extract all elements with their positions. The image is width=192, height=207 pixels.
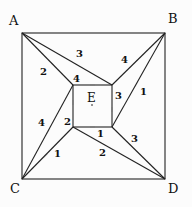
arrow-bl-d-icon bbox=[100, 142, 105, 145]
weight-d-br: 3 bbox=[131, 133, 138, 144]
center-point bbox=[91, 104, 93, 106]
edge-br-b bbox=[112, 33, 165, 127]
center-label-e: E bbox=[87, 91, 96, 105]
edge-bl-d bbox=[73, 127, 165, 179]
vertex-label-d: D bbox=[168, 181, 178, 196]
edge-b-tr bbox=[112, 33, 165, 85]
weight-br-b: 1 bbox=[140, 86, 147, 97]
arrow-a-tl-icon bbox=[51, 62, 55, 66]
weight-bl-d: 2 bbox=[99, 147, 106, 158]
vertex-label-a: A bbox=[8, 13, 19, 28]
weight-c-bl: 1 bbox=[54, 148, 61, 159]
arrow-d-br-icon bbox=[129, 144, 133, 148]
weight-inner-top: 4 bbox=[73, 73, 80, 84]
weight-tl-c: 4 bbox=[38, 117, 45, 128]
weight-b-tr: 4 bbox=[121, 54, 128, 65]
weight-inner-bottom: 1 bbox=[97, 128, 104, 139]
weight-inner-right: 3 bbox=[115, 90, 122, 101]
edge-c-bl bbox=[22, 127, 73, 179]
weight-tr-a: 3 bbox=[76, 48, 83, 59]
vertex-label-b: B bbox=[168, 11, 178, 26]
edge-a-tl bbox=[22, 33, 73, 85]
arrow-b-tr-icon bbox=[135, 58, 139, 62]
edge-tl-c bbox=[22, 85, 73, 179]
vertex-label-c: C bbox=[10, 181, 20, 196]
weight-inner-left: 2 bbox=[64, 116, 71, 127]
edge-tr-a bbox=[22, 33, 112, 85]
weight-a-tl: 2 bbox=[40, 66, 47, 77]
square-graph-diagram: A B C D E 2 3 4 1 4 1 2 3 4 2 1 3 bbox=[0, 0, 192, 207]
